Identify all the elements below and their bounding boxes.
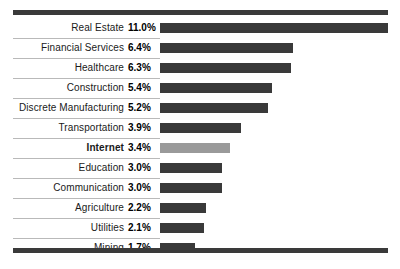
category-label: Agriculture: [0, 198, 124, 218]
category-label: Financial Services: [0, 38, 124, 58]
bar-track: [160, 178, 400, 198]
bar-track: [160, 138, 400, 158]
bar: [160, 183, 222, 193]
chart-row-internet: Internet 3.4%: [0, 138, 400, 158]
category-label: Education: [0, 158, 124, 178]
category-label: Utilities: [0, 218, 124, 238]
category-label: Communication: [0, 178, 124, 198]
bar-track: [160, 198, 400, 218]
value-label: 5.2%: [128, 98, 158, 118]
bar: [160, 103, 268, 113]
bar-track: [160, 218, 400, 238]
bar: [160, 163, 222, 173]
category-label: Healthcare: [0, 58, 124, 78]
bar-track: [160, 158, 400, 178]
bar: [160, 83, 272, 93]
bar: [160, 63, 291, 73]
bar-track: [160, 98, 400, 118]
value-label: 3.9%: [128, 118, 158, 138]
bar-track: [160, 78, 400, 98]
chart-bottom-rule: [13, 248, 388, 253]
chart-rows: Real Estate 11.0% Financial Services 6.4…: [0, 18, 400, 258]
category-label: Construction: [0, 78, 124, 98]
bar: [160, 43, 293, 53]
bar-track: [160, 38, 400, 58]
chart-row-communication: Communication 3.0%: [0, 178, 400, 198]
value-label: 6.3%: [128, 58, 158, 78]
bar: [160, 143, 230, 153]
value-label: 3.4%: [128, 138, 158, 158]
bar-track: [160, 118, 400, 138]
bar: [160, 23, 388, 33]
category-label: Internet: [0, 138, 124, 158]
chart-row-transportation: Transportation 3.9%: [0, 118, 400, 138]
category-label: Transportation: [0, 118, 124, 138]
chart-row-real-estate: Real Estate 11.0%: [0, 18, 400, 38]
bar-track: [160, 18, 400, 38]
value-label: 11.0%: [128, 18, 158, 38]
value-label: 6.4%: [128, 38, 158, 58]
bar: [160, 223, 204, 233]
chart-row-utilities: Utilities 2.1%: [0, 218, 400, 238]
chart-row-agriculture: Agriculture 2.2%: [0, 198, 400, 218]
chart-row-healthcare: Healthcare 6.3%: [0, 58, 400, 78]
category-label: Discrete Manufacturing: [0, 98, 124, 118]
chart-row-construction: Construction 5.4%: [0, 78, 400, 98]
chart-top-rule: [13, 10, 388, 15]
chart-row-education: Education 3.0%: [0, 158, 400, 178]
bar: [160, 203, 206, 213]
bar: [160, 123, 241, 133]
value-label: 3.0%: [128, 178, 158, 198]
value-label: 2.2%: [128, 198, 158, 218]
chart-row-discrete-manufacturing: Discrete Manufacturing 5.2%: [0, 98, 400, 118]
value-label: 2.1%: [128, 218, 158, 238]
chart-row-financial-services: Financial Services 6.4%: [0, 38, 400, 58]
value-label: 5.4%: [128, 78, 158, 98]
horizontal-bar-chart: Real Estate 11.0% Financial Services 6.4…: [0, 0, 400, 269]
category-label: Real Estate: [0, 18, 124, 38]
bar-track: [160, 58, 400, 78]
value-label: 3.0%: [128, 158, 158, 178]
